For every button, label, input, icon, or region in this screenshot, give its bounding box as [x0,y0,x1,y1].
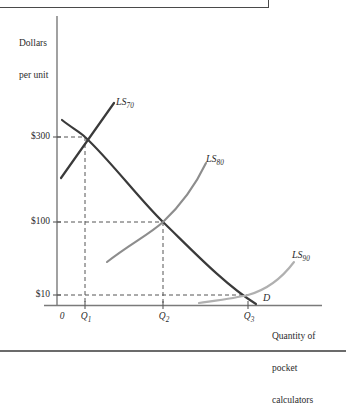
y-axis-title-line1: Dollars [19,38,48,49]
x-tick-label-q2: Q2 [152,311,176,324]
y-tick-label-300: $300 [12,131,50,142]
y-tick-label-100: $100 [12,216,50,227]
x-tick-label-q2-base: Q [159,311,166,321]
curve-label-ls70-base: LS [116,96,127,107]
x-tick-label-q3-subscript: 3 [251,316,255,324]
y-axis-title-line2: per unit [19,70,48,81]
curve-label-ls80: LS80 [206,153,224,167]
x-tick-label-origin: 0 [52,311,72,322]
y-tick-label-10: $10 [12,289,50,300]
y-axis-title: Dollars per unit [19,17,48,102]
x-axis-title: Quantity of pocket calculators [272,310,316,407]
ls70-curve [61,103,114,178]
curve-label-ls80-subscript: 80 [217,159,224,167]
curve-label-ls90-base: LS [292,249,303,260]
curve-label-ls70: LS70 [116,96,134,110]
curve-label-demand: D [263,292,270,303]
bottom-divider-rule [0,350,346,352]
curve-label-ls90-subscript: 90 [303,255,310,263]
x-tick-label-q1-subscript: 1 [88,316,92,324]
curve-label-ls70-subscript: 70 [127,102,134,110]
x-tick-label-q3: Q3 [237,311,261,324]
curve-label-ls90: LS90 [292,249,310,263]
x-tick-label-q1: Q1 [74,311,98,324]
x-tick-label-q1-base: Q [81,311,88,321]
demand-curve-d [62,120,256,304]
x-tick-label-q3-base: Q [244,311,251,321]
x-axis-title-line2: pocket [272,363,316,374]
x-tick-label-q2-subscript: 2 [166,316,170,324]
x-axis-title-line3: calculators [272,395,316,406]
x-axis-title-line1: Quantity of [272,331,316,342]
curve-label-ls80-base: LS [206,153,217,164]
